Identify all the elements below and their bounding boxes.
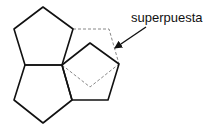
top-pentagon xyxy=(14,7,73,65)
superpuesta-label: superpuesta xyxy=(131,10,203,25)
pentagon-diagram: superpuesta xyxy=(0,0,210,127)
overlapped-pentagon-dashed-lower xyxy=(62,64,119,87)
arrow-icon xyxy=(115,27,146,48)
bottom-pentagon xyxy=(14,65,72,123)
